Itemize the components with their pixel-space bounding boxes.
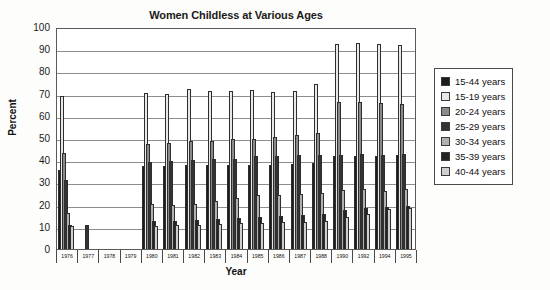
bar [176,226,178,249]
bar-group [163,29,184,249]
bar [304,223,306,249]
legend-item-label: 25-29 years [455,121,505,132]
bar [198,226,200,249]
x-tick-label: 1987 [289,250,310,263]
bar-group [184,29,205,249]
legend-item[interactable]: 15-44 years [441,74,505,89]
y-tick-label: 50 [0,133,50,144]
x-tick-label: 1983 [204,250,225,263]
x-tick-label: 1980 [141,250,162,263]
y-tick-label: 0 [0,244,50,255]
legend-swatch-icon [441,167,450,176]
x-tick-label: 1992 [352,250,373,263]
x-tick-label: 1977 [77,250,98,263]
bar-group [375,29,396,249]
x-axis-end-tick [416,250,417,263]
legend-swatch-icon [441,122,450,131]
bar-group [269,29,290,249]
x-tick-label: 1982 [183,250,204,263]
legend-item-label: 15-44 years [455,76,505,87]
legend-item[interactable]: 35-39 years [441,149,505,164]
bar-group [396,29,416,249]
bars-layer [57,29,415,249]
bar [71,227,73,249]
x-tick-label: 1984 [225,250,246,263]
x-tick-label: 1976 [56,250,77,263]
bar-group [290,29,311,249]
x-tick-label: 1994 [374,250,395,263]
y-tick-label: 60 [0,111,50,122]
bar-group [311,29,332,249]
bar-group [226,29,247,249]
y-tick-label: 80 [0,66,50,77]
chart-container: Women Childless at Various Ages Percent … [0,0,550,290]
y-tick-label: 40 [0,155,50,166]
plot-area [56,28,416,250]
x-tick-label: 1995 [395,250,416,263]
bar-group [121,29,142,249]
x-tick-label: 1978 [98,250,119,263]
bar [219,225,221,249]
legend-swatch-icon [441,137,450,146]
bar-group [57,29,78,249]
bar-group [353,29,374,249]
chart-title: Women Childless at Various Ages [56,9,416,21]
x-axis-ticks: 1976197719781979198019811982198319841985… [56,250,416,263]
legend-item-label: 40-44 years [455,166,505,177]
bar [388,210,390,249]
legend-item[interactable]: 40-44 years [441,164,505,179]
bar [282,223,284,249]
bar [86,226,88,249]
legend-item[interactable]: 15-19 years [441,89,505,104]
bar-group [205,29,226,249]
legend-item-label: 20-24 years [455,106,505,117]
legend-item[interactable]: 25-29 years [441,119,505,134]
bar-group [78,29,99,249]
y-tick-label: 70 [0,89,50,100]
legend-item[interactable]: 20-24 years [441,104,505,119]
y-tick-label: 20 [0,200,50,211]
legend-item-label: 30-34 years [455,136,505,147]
bar-group [332,29,353,249]
chart-legend: 15-44 years15-19 years20-24 years25-29 y… [434,68,513,185]
bar [261,224,263,249]
legend-swatch-icon [441,107,450,116]
bar [240,224,242,249]
x-tick-label: 1986 [268,250,289,263]
legend-swatch-icon [441,152,450,161]
bar [409,209,411,249]
bar [155,227,157,249]
x-tick-label: 1981 [162,250,183,263]
bar [367,215,369,249]
legend-item-label: 35-39 years [455,151,505,162]
x-tick-label: 1988 [310,250,331,263]
y-tick-label: 100 [0,22,50,33]
y-tick-label: 30 [0,177,50,188]
legend-item-label: 15-19 years [455,91,505,102]
bar-group [248,29,269,249]
x-tick-label: 1985 [247,250,268,263]
x-tick-label: 1979 [120,250,141,263]
bar [325,222,327,249]
bar-group [99,29,120,249]
x-axis-label: Year [56,266,416,277]
x-tick-label: 1990 [331,250,352,263]
bar-group [142,29,163,249]
legend-item[interactable]: 30-34 years [441,134,505,149]
legend-swatch-icon [441,92,450,101]
legend-swatch-icon [441,77,450,86]
y-tick-label: 10 [0,222,50,233]
y-tick-label: 90 [0,44,50,55]
bar [346,218,348,249]
